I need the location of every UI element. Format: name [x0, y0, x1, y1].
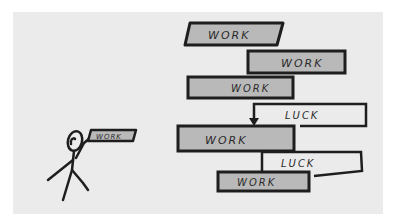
work-block-1-label: WORK: [208, 29, 250, 42]
luck-connector-1: LUCK: [249, 104, 366, 126]
work-block-5-label: WORK: [237, 177, 276, 188]
figure-work-block-label: WORK: [96, 133, 122, 141]
work-block-2: WORK: [248, 51, 345, 73]
stick-figure: [48, 130, 90, 200]
body: [63, 151, 74, 200]
luck-connector-2-label: LUCK: [281, 158, 315, 169]
face-detail: [71, 138, 75, 144]
luck-connector-1-label: LUCK: [285, 110, 319, 121]
work-block-3-label: WORK: [231, 83, 270, 94]
leg-right: [72, 170, 88, 190]
illustration: WORK WORK WORK LUCK WORK LUCK: [0, 0, 396, 223]
work-block-5: WORK: [218, 172, 309, 191]
work-block-4-label: WORK: [205, 134, 247, 147]
work-block-1: WORK: [185, 23, 283, 45]
figure-work-block: WORK: [88, 130, 136, 141]
work-block-3: WORK: [188, 77, 293, 98]
block-stack: WORK WORK WORK LUCK WORK LUCK: [178, 23, 366, 191]
work-block-2-label: WORK: [281, 57, 323, 70]
work-block-4: WORK: [178, 126, 294, 151]
